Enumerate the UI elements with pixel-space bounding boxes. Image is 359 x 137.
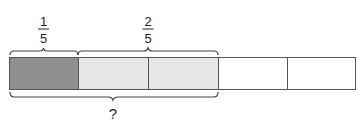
numerator: 1 — [40, 14, 47, 29]
denominator: 5 — [144, 31, 151, 46]
unknown-total-label: ? — [109, 105, 117, 122]
top-brace-two-fifths — [78, 48, 218, 55]
tape-part-2 — [79, 58, 149, 90]
fraction-label-two-fifths: 2 5 — [143, 14, 154, 46]
tape-part-1 — [10, 58, 79, 90]
tape-part-3 — [149, 58, 219, 90]
tape-part-5 — [288, 58, 356, 90]
fraction-label-one-fifth: 1 5 — [38, 14, 49, 46]
top-brace-one-fifth — [10, 48, 78, 55]
denominator: 5 — [40, 31, 47, 46]
tape-diagram: 1 5 2 5 ? — [0, 0, 359, 137]
numerator: 2 — [144, 14, 151, 29]
bottom-brace — [10, 92, 218, 100]
tape-part-4 — [219, 58, 288, 90]
